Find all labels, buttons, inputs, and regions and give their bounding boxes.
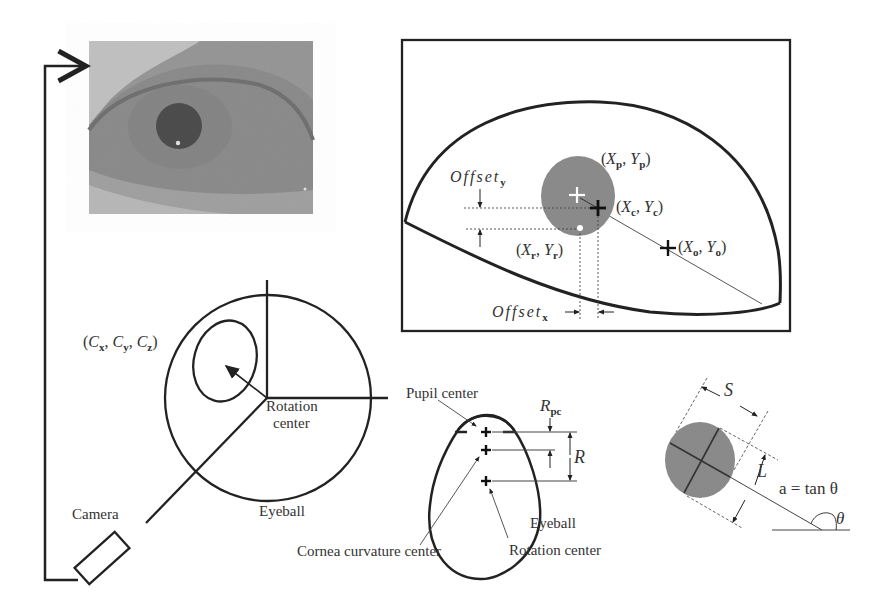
camera-label: Camera	[72, 506, 119, 522]
cornea-coordinate-label: (Cx, Cy, Cz)	[83, 333, 158, 353]
theta-label: θ	[836, 509, 844, 528]
eye-photo	[89, 41, 313, 214]
s-label: S	[724, 380, 733, 400]
r-pc-label: Rpc	[539, 396, 562, 417]
camera-signal-path	[45, 66, 86, 580]
rotation-center-label-1: Rotation	[266, 398, 318, 414]
slope-equation: a = tan θ	[779, 479, 838, 498]
cornea-curvature-center-label: Cornea curvature center	[297, 543, 441, 559]
rotation-center-label: Rotation center	[509, 542, 601, 558]
pupil-center-label: Pupil center	[406, 385, 478, 401]
eye-image-panel	[402, 40, 790, 331]
r-label: R	[573, 447, 585, 467]
eye-tracking-diagram: Camera Rotation center Eyeball (Cx, Cy, …	[0, 0, 892, 614]
ellipse-fit-model	[665, 378, 850, 530]
eyeball-model-label: Eyeball	[530, 515, 576, 531]
rotation-center-label-2: center	[273, 415, 310, 431]
eyeball-label: Eyeball	[259, 503, 305, 519]
l-label: L	[756, 461, 767, 481]
camera-icon	[75, 532, 130, 584]
